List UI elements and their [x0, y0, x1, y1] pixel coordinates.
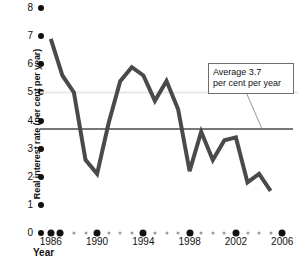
plot-area: [0, 0, 298, 262]
annotation-average-box: Average 3.7 per cent per year: [208, 63, 294, 94]
annotation-line-1: Average 3.7: [213, 67, 289, 78]
data-series-line: [51, 39, 271, 191]
annotation-leader-line: [246, 92, 262, 129]
chart-container: Real interest rate (per cent per year) Y…: [0, 0, 298, 262]
annotation-line-2: per cent per year: [213, 78, 289, 89]
